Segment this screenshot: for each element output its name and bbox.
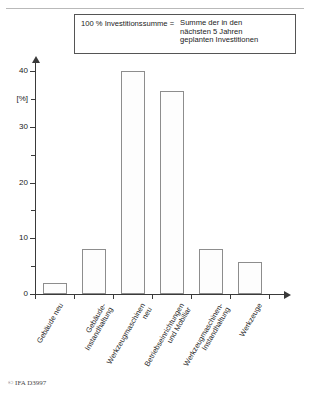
x-tick-3 bbox=[152, 295, 153, 299]
x-category-line: Gebäude neu bbox=[29, 302, 65, 356]
y-axis-label-20: 20 bbox=[10, 179, 28, 187]
y-tick-5 bbox=[31, 266, 35, 267]
x-tick-0 bbox=[35, 295, 36, 299]
y-axis-label-40: 40 bbox=[10, 67, 28, 75]
figure-page: 100 % Investitionssumme = Summe der in d… bbox=[0, 0, 310, 400]
y-axis-label-10: 10 bbox=[10, 234, 28, 242]
bar-chart-plot: 0 10 20 30 40 [%] Gebäude neu bbox=[0, 0, 310, 400]
bar-betriebseinrichtungen-mobiliar bbox=[160, 91, 184, 295]
x-tick-1 bbox=[74, 295, 75, 299]
y-axis-arrow bbox=[32, 56, 40, 63]
y-tick-40 bbox=[30, 71, 35, 72]
x-tick-2 bbox=[113, 295, 114, 299]
x-tick-5 bbox=[230, 295, 231, 299]
y-axis-unit-label: [%] bbox=[6, 95, 28, 103]
bar-gebaeude-instandhaltung bbox=[82, 249, 106, 294]
x-axis-arrow bbox=[284, 291, 291, 299]
bar-werkzeugmaschinen-instandhaltung bbox=[199, 249, 223, 294]
x-tick-4 bbox=[191, 295, 192, 299]
x-category-label-gebaeude-neu: Gebäude neu bbox=[29, 302, 65, 356]
y-tick-20 bbox=[30, 183, 35, 184]
x-tick-6 bbox=[269, 295, 270, 299]
bar-gebaeude-neu bbox=[43, 283, 67, 294]
footer-credit: © IFA D3997 bbox=[8, 379, 46, 387]
y-tick-15 bbox=[31, 210, 35, 211]
bar-werkzeuge bbox=[238, 262, 262, 294]
bar-werkzeugmaschinen-neu bbox=[121, 71, 145, 294]
y-tick-25 bbox=[31, 155, 35, 156]
y-tick-35 bbox=[31, 99, 35, 100]
y-axis-label-0: 0 bbox=[10, 290, 28, 298]
y-axis-line bbox=[35, 62, 36, 295]
x-axis-line bbox=[35, 294, 285, 295]
y-tick-10 bbox=[30, 238, 35, 239]
y-axis-label-30: 30 bbox=[10, 123, 28, 131]
y-tick-30 bbox=[30, 127, 35, 128]
